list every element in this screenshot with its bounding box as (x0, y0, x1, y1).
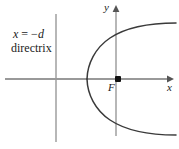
focus-point-marker (115, 76, 121, 82)
focus-label: F (108, 82, 115, 93)
figure-canvas (0, 0, 179, 149)
y-axis-arrow-icon (113, 5, 120, 12)
directrix-equation-value: d (38, 27, 44, 41)
y-axis (113, 5, 120, 136)
parabola-figure: x = −d directrix y x F (0, 0, 179, 149)
parabola-lower-branch (87, 79, 176, 135)
y-axis-label: y (104, 2, 109, 13)
parabola-upper-branch (87, 23, 176, 79)
directrix-equation-operator: = − (18, 27, 38, 41)
x-axis (5, 75, 174, 82)
directrix-equation-label: x = −d (13, 28, 44, 40)
directrix-text-label: directrix (11, 42, 52, 54)
x-axis-label: x (167, 82, 172, 93)
